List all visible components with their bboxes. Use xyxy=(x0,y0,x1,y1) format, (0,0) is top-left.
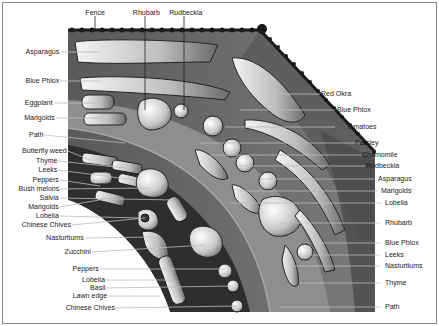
label-blue-phlox-right-1: Blue Phlox xyxy=(337,105,371,114)
label-chinese-chives-1: Chinese Chives xyxy=(22,220,71,229)
label-butterfly-weed: Butterfly weed xyxy=(22,146,67,155)
label-path-right: Path xyxy=(385,302,399,311)
label-blue-phlox-right-2: Blue Phlox xyxy=(385,238,419,247)
label-lobelia-right: Lobelia xyxy=(385,198,408,207)
label-fence: Fence xyxy=(85,8,105,17)
label-asparagus-left: Asparagus xyxy=(25,47,59,56)
label-leeks-right: Leeks xyxy=(385,250,404,259)
label-marigolds-left-1: Marigolds xyxy=(24,113,55,122)
label-rudbeckia-top: Rudbeckia xyxy=(169,8,202,17)
label-peppers-left-1: Peppers xyxy=(33,175,59,184)
label-nasturtiums-right: Nasturtiums xyxy=(385,261,423,270)
label-rhubarb-right: Rhubarb xyxy=(385,218,412,227)
label-chamomile: Chamomile xyxy=(362,150,398,159)
label-lawn-edge: Lawn edge xyxy=(73,291,107,300)
label-lobelia-left-1: Lobelia xyxy=(36,211,59,220)
label-nasturtiums-left: Nasturtiums xyxy=(46,233,84,242)
label-thyme-right: Thyme xyxy=(385,278,407,287)
label-red-okra: Red Okra xyxy=(321,89,351,98)
label-leeks-left: Leeks xyxy=(38,165,57,174)
label-rudbeckia-right: Rudbeckia xyxy=(366,161,399,170)
label-marigolds-left-2: Marigolds xyxy=(28,202,59,211)
label-peppers-left-2: Peppers xyxy=(73,264,99,273)
label-path-left: Path xyxy=(29,130,43,139)
label-thyme-left: Thyme xyxy=(35,156,57,165)
label-zucchini: Zucchini xyxy=(65,247,91,256)
label-bush-melons: Bush melons xyxy=(18,184,59,193)
label-blue-phlox-left: Blue Phlox xyxy=(25,76,59,85)
label-eggplant: Eggplant xyxy=(25,98,53,107)
label-parsley: Parsley xyxy=(355,138,378,147)
label-marigolds-right: Marigolds xyxy=(381,186,412,195)
label-salvia: Salvia xyxy=(40,193,59,202)
label-asparagus-right: Asparagus xyxy=(378,174,412,183)
label-chinese-chives-2: Chinese Chives xyxy=(66,303,115,312)
label-rhubarb-top: Rhubarb xyxy=(133,8,160,17)
label-tomatoes: Tomatoes xyxy=(346,122,377,131)
